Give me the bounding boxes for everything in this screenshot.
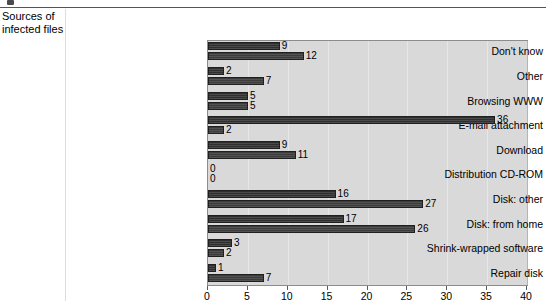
x-axis-tick-label: 25 bbox=[401, 291, 413, 301]
bar bbox=[208, 151, 296, 159]
bar-value-label: 9 bbox=[282, 41, 288, 51]
x-axis-tick-label: 10 bbox=[281, 291, 293, 301]
x-axis-tick-label: 40 bbox=[520, 291, 532, 301]
bar bbox=[208, 116, 495, 124]
caption-column: Sources of infected files bbox=[0, 9, 66, 301]
plot-vertical-tick bbox=[328, 41, 329, 285]
bar bbox=[208, 92, 248, 100]
bar-value-label: 7 bbox=[266, 273, 272, 283]
bar bbox=[208, 52, 304, 60]
bar-value-label: 11 bbox=[298, 150, 308, 160]
header-divider bbox=[0, 7, 546, 8]
bar bbox=[208, 225, 415, 233]
bar bbox=[208, 42, 280, 50]
bar bbox=[208, 264, 216, 272]
x-axis-tick-label: 5 bbox=[244, 291, 250, 301]
bar-value-label: 2 bbox=[226, 248, 232, 258]
x-axis-tick-label: 0 bbox=[204, 291, 210, 301]
bar-value-label: 36 bbox=[497, 115, 508, 125]
bar bbox=[208, 77, 264, 85]
bar-chart: Don't knowOtherBrowsing WWWE-mail attach… bbox=[66, 9, 546, 301]
bar bbox=[208, 67, 224, 75]
square-marker-icon bbox=[7, 0, 14, 5]
bar-value-label: 27 bbox=[425, 199, 436, 209]
bar-value-label: 2 bbox=[226, 125, 232, 135]
category-label: Download bbox=[407, 145, 546, 156]
category-label: Repair disk bbox=[407, 268, 546, 279]
bar bbox=[208, 200, 423, 208]
category-label: Shrink-wrapped software bbox=[407, 243, 546, 254]
bar-value-label: 17 bbox=[346, 214, 357, 224]
x-axis-tick-label: 30 bbox=[440, 291, 452, 301]
category-label: Other bbox=[407, 71, 546, 82]
bar bbox=[208, 126, 224, 134]
bar-value-label: 7 bbox=[266, 76, 272, 86]
bar-value-label: 0 bbox=[210, 174, 216, 184]
bar-value-label: 12 bbox=[306, 51, 317, 61]
bar bbox=[208, 190, 336, 198]
bar-value-label: 9 bbox=[282, 140, 288, 150]
plot-vertical-tick bbox=[368, 41, 369, 285]
x-axis-tick-label: 35 bbox=[480, 291, 492, 301]
bar-value-label: 3 bbox=[234, 238, 240, 248]
x-axis-tick-label: 20 bbox=[361, 291, 373, 301]
category-label: Don't know bbox=[407, 46, 546, 57]
bar-value-label: 16 bbox=[338, 189, 349, 199]
page-title: Sources of infected files bbox=[2, 10, 66, 35]
bar-value-label: 1 bbox=[218, 263, 224, 273]
x-axis: 0510152025303540 bbox=[207, 286, 528, 291]
bar bbox=[208, 102, 248, 110]
bar-value-label: 5 bbox=[250, 91, 256, 101]
bar bbox=[208, 249, 224, 257]
bar-value-label: 2 bbox=[226, 66, 232, 76]
bar bbox=[208, 141, 280, 149]
category-label: Distribution CD-ROM bbox=[407, 169, 546, 180]
x-axis-tick-label: 15 bbox=[321, 291, 333, 301]
category-label: Browsing WWW bbox=[407, 96, 546, 107]
plot-vertical-tick bbox=[288, 41, 289, 285]
bar bbox=[208, 215, 344, 223]
bar-value-label: 5 bbox=[250, 101, 256, 111]
bar bbox=[208, 274, 264, 282]
bar-value-label: 26 bbox=[417, 224, 428, 234]
bar bbox=[208, 239, 232, 247]
